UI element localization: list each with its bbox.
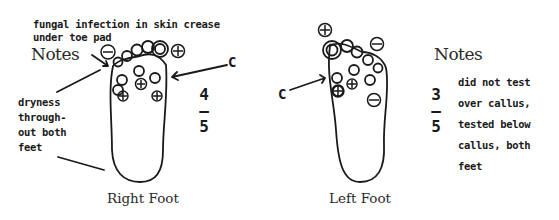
right-dryness-annotation: dryness through- out both feet <box>18 95 66 155</box>
left-toe-5 <box>374 64 383 73</box>
right-fungal-annotation: fungal infection in skin crease under to… <box>33 18 220 44</box>
left-score-denominator: 5 <box>426 117 446 137</box>
right-callus-marker: C <box>228 54 236 70</box>
left-callus-marker: C <box>278 86 286 102</box>
left-plus-marker <box>347 79 357 89</box>
right-fungal-arrow <box>92 55 108 66</box>
right-site-circle <box>117 75 127 85</box>
left-foot-label: Left Foot <box>329 190 391 206</box>
left-score-separator: – <box>426 105 446 117</box>
left-plus-marker <box>319 24 332 37</box>
right-toe-3 <box>132 45 143 56</box>
right-notes-label: Notes <box>31 44 79 64</box>
left-toe-4 <box>363 55 373 65</box>
left-callus-annotation: did not test over callus, tested below c… <box>458 72 530 177</box>
right-dryness-line <box>57 70 100 92</box>
right-score-denominator: 5 <box>194 117 214 137</box>
left-minus-marker <box>368 94 381 107</box>
right-plus-marker <box>152 91 162 101</box>
left-notes-label: Notes <box>434 44 482 64</box>
left-minus-marker <box>371 38 384 51</box>
right-score: 4 – 5 <box>194 85 214 137</box>
right-plus-marker <box>118 91 128 101</box>
right-dryness-line-2 <box>58 157 104 170</box>
right-plus-marker <box>172 45 185 58</box>
left-callus-arrow <box>290 75 325 90</box>
right-foot-label: Right Foot <box>107 190 179 206</box>
right-plus-marker <box>136 79 147 90</box>
right-score-separator: – <box>194 105 214 117</box>
right-callus-arrow <box>172 65 227 80</box>
left-plus-marker <box>333 86 344 97</box>
left-score: 3 – 5 <box>426 85 446 137</box>
right-minus-marker <box>101 45 115 59</box>
